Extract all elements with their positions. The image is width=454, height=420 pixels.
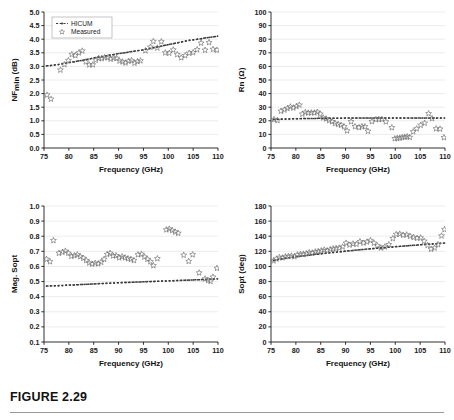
mag-sopt-hicum-point bbox=[217, 278, 219, 280]
mag-sopt-y-tick-label: 1.0 bbox=[30, 202, 40, 211]
mag-sopt-hicum-point bbox=[70, 284, 72, 286]
mag-sopt-y-tick-label: 0.8 bbox=[30, 232, 40, 241]
sopt-hicum-point bbox=[364, 248, 366, 250]
mag-sopt-hicum-point bbox=[133, 281, 135, 283]
chart-panel-sopt: 0204060801001201401601807580859095100105… bbox=[227, 194, 454, 388]
nfmin-hicum-point bbox=[213, 36, 215, 38]
mag-sopt-x-axis-title: Frequency (GHz) bbox=[99, 359, 163, 368]
rn-hicum-point bbox=[348, 117, 350, 119]
nfmin-y-tick-label: 3.5 bbox=[30, 48, 40, 57]
rn-x-tick-label: 105 bbox=[414, 152, 426, 161]
rn-plot: 0102030405060708090100758085909510010511… bbox=[227, 0, 454, 194]
nfmin-y-tick-label: 4.5 bbox=[30, 21, 40, 30]
rn-hicum-point bbox=[289, 118, 291, 120]
rn-x-tick-label: 75 bbox=[267, 152, 275, 161]
nfmin-hicum-point bbox=[189, 39, 191, 41]
sopt-hicum-point bbox=[336, 251, 338, 253]
nfmin-hicum-point bbox=[117, 53, 119, 55]
nfmin-y-tick-label: 0.0 bbox=[30, 144, 40, 153]
mag-sopt-hicum-point bbox=[149, 281, 151, 283]
rn-hicum-point bbox=[304, 118, 306, 120]
mag-sopt-hicum-point bbox=[129, 281, 131, 283]
sopt-y-tick-label: 60 bbox=[259, 292, 267, 301]
nfmin-y-tick-label: 1.0 bbox=[30, 116, 40, 125]
nfmin-hicum-point bbox=[193, 39, 195, 41]
mag-sopt-hicum-point bbox=[125, 282, 127, 284]
sopt-hicum-point bbox=[372, 248, 374, 250]
rn-hicum-point bbox=[420, 117, 422, 119]
sopt-hicum-point bbox=[356, 249, 358, 251]
mag-sopt-y-axis-title: Mag. Sopt bbox=[10, 255, 19, 294]
nfmin-hicum-point bbox=[73, 61, 75, 63]
rn-hicum-point bbox=[293, 118, 295, 120]
mag-sopt-hicum-point bbox=[169, 280, 171, 282]
rn-y-tick-label: 60 bbox=[259, 62, 267, 71]
mag-sopt-x-tick-label: 90 bbox=[115, 346, 123, 355]
mag-sopt-hicum-point bbox=[181, 280, 183, 282]
rn-hicum-point bbox=[316, 118, 318, 120]
rn-hicum-point bbox=[400, 117, 402, 119]
sopt-x-tick-label: 100 bbox=[389, 346, 401, 355]
rn-hicum-point bbox=[336, 117, 338, 119]
rn-y-axis-title: Rn (Ω) bbox=[237, 67, 246, 92]
legend-measured-label: Measured bbox=[71, 28, 101, 35]
rn-x-tick-label: 80 bbox=[292, 152, 300, 161]
nfmin-x-tick-label: 75 bbox=[40, 152, 48, 161]
rn-hicum-point bbox=[368, 117, 370, 119]
mag-sopt-hicum-point bbox=[113, 282, 115, 284]
nfmin-hicum-point bbox=[217, 35, 219, 37]
mag-sopt-x-tick-label: 100 bbox=[162, 346, 174, 355]
sopt-y-axis-title: Sopt (deg) bbox=[237, 254, 246, 294]
mag-sopt-hicum-point bbox=[201, 279, 203, 281]
sopt-hicum-point bbox=[408, 245, 410, 247]
mag-sopt-hicum-point bbox=[173, 280, 175, 282]
sopt-hicum-point bbox=[420, 244, 422, 246]
mag-sopt-hicum-point bbox=[185, 279, 187, 281]
mag-sopt-hicum-point bbox=[141, 281, 143, 283]
rn-y-tick-label: 80 bbox=[259, 35, 267, 44]
mag-sopt-x-tick-label: 110 bbox=[212, 346, 224, 355]
legend-hicum-label: HICUM bbox=[71, 20, 93, 27]
sopt-hicum-point bbox=[332, 252, 334, 254]
nfmin-legend: HICUMMeasured bbox=[52, 17, 112, 38]
rn-y-tick-label: 10 bbox=[259, 130, 267, 139]
mag-sopt-y-tick-label: 0.9 bbox=[30, 217, 40, 226]
nfmin-plot: 0.00.51.01.52.02.53.03.54.04.55.07580859… bbox=[0, 0, 227, 194]
mag-sopt-hicum-point bbox=[153, 281, 155, 283]
sopt-hicum-point bbox=[400, 245, 402, 247]
chart-panel-nfmin: 0.00.51.01.52.02.53.03.54.04.55.07580859… bbox=[0, 0, 227, 194]
mag-sopt-y-tick-label: 0.4 bbox=[30, 292, 40, 301]
mag-sopt-hicum-point bbox=[97, 283, 99, 285]
nfmin-x-tick-label: 85 bbox=[90, 152, 98, 161]
chart-panel-mag-sopt: 0.10.20.30.40.50.60.70.80.91.07580859095… bbox=[0, 194, 227, 388]
sopt-hicum-point bbox=[392, 246, 394, 248]
caption-divider bbox=[10, 412, 444, 413]
sopt-y-tick-label: 40 bbox=[259, 307, 267, 316]
rn-y-tick-label: 0 bbox=[263, 144, 267, 153]
sopt-x-tick-label: 75 bbox=[267, 346, 275, 355]
sopt-plot: 0204060801001201401601807580859095100105… bbox=[227, 194, 454, 388]
sopt-y-tick-label: 80 bbox=[259, 277, 267, 286]
rn-hicum-point bbox=[408, 117, 410, 119]
rn-hicum-point bbox=[412, 117, 414, 119]
rn-hicum-point bbox=[312, 118, 314, 120]
sopt-hicum-point bbox=[360, 249, 362, 251]
nfmin-x-tick-label: 100 bbox=[162, 152, 174, 161]
sopt-hicum-point bbox=[352, 250, 354, 252]
rn-hicum-point bbox=[396, 117, 398, 119]
sopt-y-tick-label: 0 bbox=[263, 338, 267, 347]
sopt-hicum-point bbox=[340, 251, 342, 253]
mag-sopt-y-tick-label: 0.6 bbox=[30, 262, 40, 271]
nfmin-hicum-point bbox=[181, 41, 183, 43]
mag-sopt-hicum-point bbox=[66, 284, 68, 286]
mag-sopt-hicum-point bbox=[73, 284, 75, 286]
nfmin-hicum-point bbox=[46, 65, 48, 67]
sopt-hicum-point bbox=[444, 242, 446, 244]
sopt-y-axis-title-text: Sopt (deg) bbox=[237, 254, 246, 294]
mag-sopt-hicum-point bbox=[137, 281, 139, 283]
rn-hicum-point bbox=[440, 117, 442, 119]
rn-y-axis-title-text: Rn (Ω) bbox=[237, 67, 246, 92]
nfmin-hicum-point bbox=[77, 60, 79, 62]
mag-sopt-hicum-point bbox=[105, 283, 107, 285]
sopt-x-axis-title: Frequency (GHz) bbox=[326, 359, 390, 368]
